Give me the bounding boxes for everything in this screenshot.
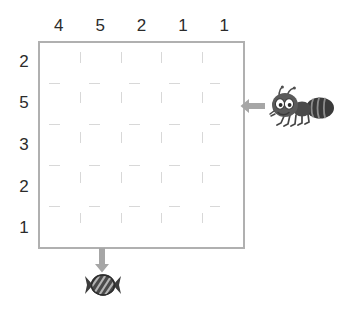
column-label-0: 4 <box>38 14 79 38</box>
grid-lines <box>40 43 243 247</box>
puzzle-canvas: 4 5 2 1 1 2 5 3 2 1 <box>0 0 341 313</box>
column-label-4: 1 <box>204 14 245 38</box>
row-label-4: 1 <box>12 207 36 249</box>
row-label-0: 2 <box>12 41 36 83</box>
row-label-3: 2 <box>12 166 36 208</box>
column-labels: 4 5 2 1 1 <box>38 14 245 38</box>
candy-icon <box>82 268 124 302</box>
arrow-left-icon <box>240 97 266 115</box>
column-label-2: 2 <box>121 14 162 38</box>
row-label-2: 3 <box>12 124 36 166</box>
column-label-3: 1 <box>162 14 203 38</box>
column-label-1: 5 <box>79 14 120 38</box>
puzzle-grid[interactable] <box>38 41 245 249</box>
ant-icon <box>266 85 336 131</box>
row-label-1: 5 <box>12 83 36 125</box>
row-labels: 2 5 3 2 1 <box>12 41 36 249</box>
